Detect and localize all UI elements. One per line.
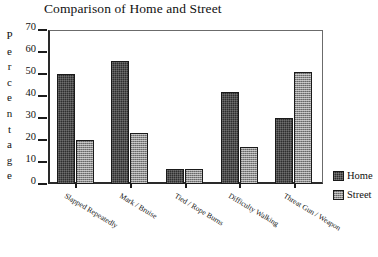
- x-axis-tick-mark: [239, 183, 241, 188]
- x-axis-tick-mark: [185, 183, 187, 188]
- x-axis-label: Mark / Bruise: [118, 192, 158, 221]
- x-axis-tick-mark: [75, 183, 77, 188]
- x-axis-label: Difficulty Walking: [227, 192, 280, 228]
- legend-item-street[interactable]: Street: [333, 187, 378, 202]
- legend-label: Home: [347, 170, 373, 181]
- x-axis-labels: Slapped RepeatedlyMark / BruiseTied / Ro…: [0, 0, 378, 257]
- chart-legend: HomeStreet: [333, 168, 378, 206]
- x-axis-label: Tied / Rope Burns: [172, 192, 224, 228]
- legend-swatch-street: [333, 190, 344, 200]
- legend-label: Street: [347, 189, 372, 200]
- legend-item-home[interactable]: Home: [333, 168, 378, 183]
- x-axis-label: Slapped Repeatedly: [63, 192, 119, 230]
- legend-swatch-home: [333, 171, 344, 181]
- bar-chart: Comparison of Home and Street Percentage…: [0, 0, 378, 257]
- x-axis-tick-mark: [130, 183, 132, 188]
- x-axis-tick-mark: [294, 183, 296, 188]
